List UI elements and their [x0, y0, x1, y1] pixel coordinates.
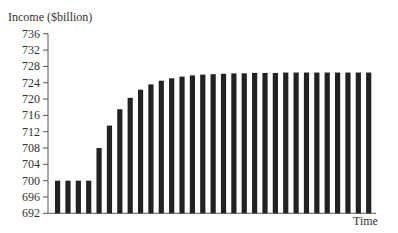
bar [345, 73, 350, 214]
y-tick-label: 732 [22, 43, 40, 57]
bar [55, 181, 60, 214]
y-tick-label: 708 [22, 141, 40, 155]
bar [148, 84, 153, 213]
y-tick-label: 704 [22, 157, 40, 171]
bar [159, 81, 164, 214]
y-tick-label: 716 [22, 108, 40, 122]
y-tick-label: 700 [22, 174, 40, 188]
bar [294, 73, 299, 214]
bar [242, 73, 247, 213]
bar [96, 148, 101, 213]
bar [76, 181, 81, 214]
bar [138, 90, 143, 214]
bar [335, 73, 340, 214]
y-tick-label: 720 [22, 92, 40, 106]
y-tick-label: 736 [22, 27, 40, 41]
bar [221, 74, 226, 214]
y-tick-label: 712 [22, 125, 40, 139]
bar [169, 78, 174, 213]
bar [86, 181, 91, 214]
bar [211, 74, 216, 213]
bar [356, 73, 361, 214]
bar [262, 73, 267, 213]
bar [304, 73, 309, 214]
bar-chart: 692696700704708712716720724728732736 [0, 0, 398, 233]
bar [325, 73, 330, 214]
bar [283, 73, 288, 214]
bar [231, 73, 236, 213]
bar [65, 181, 70, 214]
x-axis-title: Time [353, 214, 378, 229]
bar [179, 77, 184, 214]
bar [314, 73, 319, 214]
bar [252, 73, 257, 213]
y-tick-label: 692 [22, 206, 40, 220]
bar [117, 109, 122, 213]
bar [366, 73, 371, 214]
bar [190, 75, 195, 213]
y-tick-label: 728 [22, 59, 40, 73]
bar [128, 98, 133, 213]
y-tick-label: 696 [22, 190, 40, 204]
y-tick-label: 724 [22, 76, 40, 90]
bar [273, 73, 278, 213]
bar [200, 75, 205, 214]
bar [107, 126, 112, 214]
